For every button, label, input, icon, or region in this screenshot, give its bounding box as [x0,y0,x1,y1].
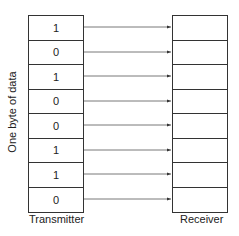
parallel-lines [0,0,239,236]
receiver-label: Receiver [180,213,223,225]
transmitter-label: Transmitter [29,213,84,225]
